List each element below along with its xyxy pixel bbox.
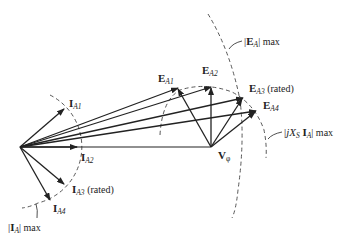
label-ia3: IA3 (rated) bbox=[72, 184, 114, 195]
label-jxs-max: |jXS IA| max bbox=[284, 127, 333, 138]
ea-max-leader bbox=[229, 41, 242, 49]
label-ia-max: |IA| max bbox=[8, 222, 41, 233]
label-ea1: EA1 bbox=[158, 73, 174, 84]
label-ea3: EA3 (rated) bbox=[249, 83, 294, 94]
jxs-ia3-arrow bbox=[211, 99, 242, 147]
ia-max-arc-tail bbox=[22, 203, 38, 208]
label-vphi: Vφ bbox=[218, 150, 230, 161]
label-ia2: IA2 bbox=[81, 152, 94, 163]
label-ia4: IA4 bbox=[53, 203, 66, 214]
label-ea4: EA4 bbox=[263, 100, 279, 111]
ia3-arrow bbox=[20, 147, 64, 184]
ia-max-leader bbox=[36, 204, 37, 218]
label-ea2: EA2 bbox=[202, 65, 218, 76]
ia4-arrow bbox=[20, 147, 50, 200]
label-ia1: IA1 bbox=[69, 98, 82, 109]
label-ea-max: |EA| max bbox=[244, 36, 280, 47]
jxs-max-leader bbox=[268, 132, 282, 139]
